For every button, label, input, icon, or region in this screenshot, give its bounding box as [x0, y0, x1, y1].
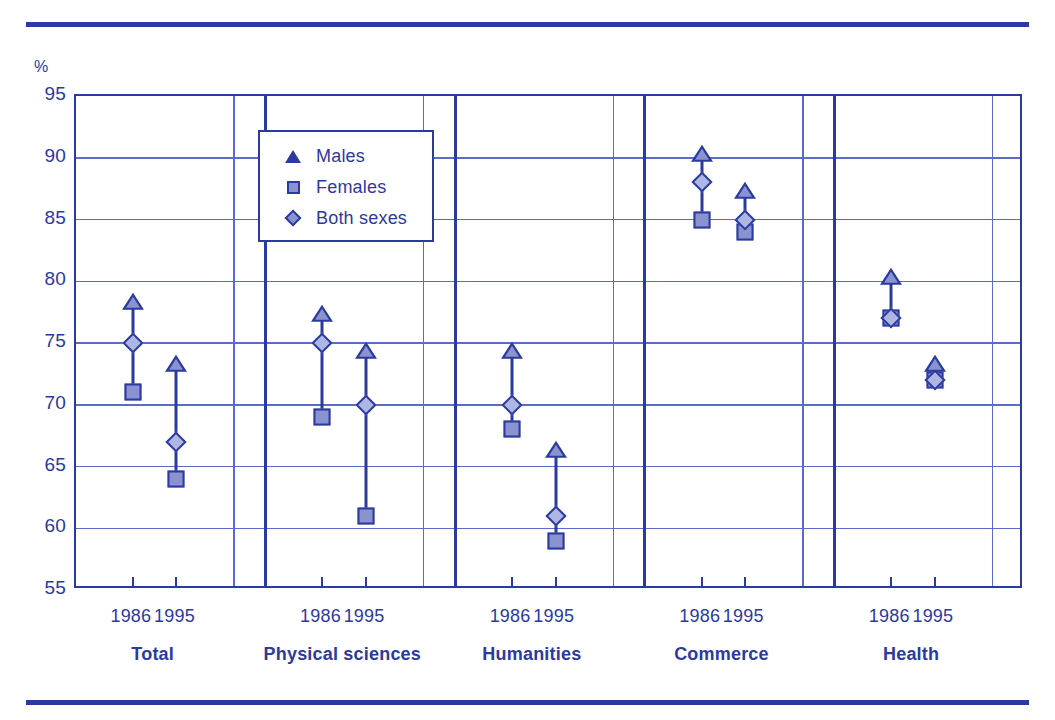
x-axis-group-label: Health: [883, 644, 939, 665]
triangle-up-icon-glyph: [285, 150, 301, 163]
x-axis-tick-mark: [175, 577, 177, 586]
top-rule: [26, 22, 1029, 27]
y-axis-unit-label: %: [34, 58, 48, 76]
chart-legend: MalesFemalesBoth sexes: [258, 130, 434, 242]
bottom-rule: [26, 700, 1029, 705]
y-axis-tick-label: 90: [20, 145, 66, 167]
y-axis-tick-label: 85: [20, 207, 66, 229]
x-axis-tick-mark: [132, 577, 134, 586]
range-connector: [175, 368, 178, 479]
x-axis-year-label: 1986: [490, 606, 531, 627]
x-axis-tick-mark: [934, 577, 936, 586]
chart-figure: % 556065707580859095 MalesFemalesBoth se…: [0, 0, 1055, 720]
square-icon-glyph: [287, 181, 300, 194]
x-axis-year-label: 1995: [723, 606, 764, 627]
legend-item-label: Females: [316, 177, 386, 198]
gridline-horizontal: [76, 281, 1020, 283]
y-axis-tick-label: 65: [20, 454, 66, 476]
x-axis-year-label: 1986: [869, 606, 910, 627]
y-axis-tick-label: 60: [20, 515, 66, 537]
y-axis-tick-label: 55: [20, 577, 66, 599]
range-connector: [365, 355, 368, 516]
data-point-females: [168, 470, 185, 487]
data-point-females: [124, 384, 141, 401]
gridline-horizontal: [76, 342, 1020, 344]
x-axis-year-label: 1995: [344, 606, 385, 627]
triangle-up-icon: [282, 145, 304, 167]
x-axis-group-label: Humanities: [482, 644, 581, 665]
data-point-males: [545, 441, 567, 458]
plot-area: [74, 94, 1022, 588]
data-point-both-sexes: [501, 394, 522, 415]
data-point-males: [501, 342, 523, 359]
data-point-both-sexes: [355, 394, 376, 415]
y-axis-tick-label: 80: [20, 268, 66, 290]
legend-item: Males: [282, 141, 365, 171]
legend-item: Females: [282, 172, 386, 202]
x-axis-year-label: 1995: [154, 606, 195, 627]
data-point-males: [880, 268, 902, 285]
legend-item-label: Both sexes: [316, 208, 407, 229]
x-axis-group-label: Physical sciences: [264, 644, 422, 665]
group-divider: [833, 96, 836, 586]
range-connector: [511, 355, 514, 429]
x-axis-tick-mark: [511, 577, 513, 586]
x-axis-tick-mark: [365, 577, 367, 586]
legend-item: Both sexes: [282, 203, 407, 233]
gridline-horizontal: [76, 157, 1020, 159]
gridline-horizontal: [76, 466, 1020, 468]
x-axis-tick-mark: [701, 577, 703, 586]
x-axis-tick-mark: [321, 577, 323, 586]
data-point-females: [547, 532, 564, 549]
data-point-females: [358, 507, 375, 524]
y-axis: 556065707580859095: [14, 94, 66, 588]
gridline-vertical: [233, 96, 235, 586]
data-point-both-sexes: [691, 172, 712, 193]
data-point-males: [924, 354, 946, 371]
gridline-vertical: [613, 96, 615, 586]
data-point-both-sexes: [545, 505, 566, 526]
square-icon: [282, 176, 304, 198]
x-axis-group-label: Total: [131, 644, 174, 665]
data-point-males: [165, 354, 187, 371]
data-point-males: [355, 342, 377, 359]
x-axis-year-label: 1986: [110, 606, 151, 627]
group-divider: [454, 96, 457, 586]
gridline-horizontal: [76, 219, 1020, 221]
diamond-icon: [282, 207, 304, 229]
legend-item-label: Males: [316, 146, 365, 167]
gridline-horizontal: [76, 404, 1020, 406]
data-point-females: [693, 211, 710, 228]
data-point-males: [691, 144, 713, 161]
data-point-females: [314, 409, 331, 426]
x-axis-group-label: Commerce: [674, 644, 769, 665]
range-connector: [554, 454, 557, 540]
y-axis-tick-label: 95: [20, 83, 66, 105]
gridline-vertical: [802, 96, 804, 586]
x-axis-tick-mark: [744, 577, 746, 586]
gridline-vertical: [992, 96, 994, 586]
y-axis-tick-label: 75: [20, 330, 66, 352]
data-point-males: [122, 293, 144, 310]
x-axis-tick-mark: [555, 577, 557, 586]
data-point-both-sexes: [312, 332, 333, 353]
x-axis-year-label: 1986: [679, 606, 720, 627]
x-axis-year-label: 1995: [533, 606, 574, 627]
diamond-icon-glyph: [285, 210, 302, 227]
data-point-both-sexes: [166, 431, 187, 452]
data-point-males: [311, 305, 333, 322]
data-point-both-sexes: [122, 332, 143, 353]
group-divider: [643, 96, 646, 586]
x-axis-tick-mark: [890, 577, 892, 586]
y-axis-tick-label: 70: [20, 392, 66, 414]
x-axis-year-label: 1986: [300, 606, 341, 627]
data-point-females: [504, 421, 521, 438]
data-point-males: [734, 181, 756, 198]
x-axis-year-label: 1995: [912, 606, 953, 627]
gridline-horizontal: [76, 528, 1020, 530]
